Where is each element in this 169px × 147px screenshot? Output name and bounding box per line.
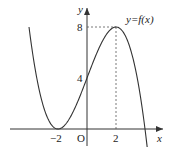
y-tick-4: 4	[77, 72, 83, 84]
function-graph: y x O 8 4 −2 2 y=f(x)	[0, 0, 169, 147]
x-tick-2: 2	[113, 132, 119, 144]
y-axis-label: y	[77, 3, 83, 15]
graph-canvas: y x O 8 4 −2 2 y=f(x)	[0, 0, 169, 147]
origin-label: O	[77, 132, 85, 144]
function-label: y=f(x)	[125, 13, 154, 26]
y-tick-8: 8	[77, 21, 83, 33]
x-tick-neg2: −2	[50, 132, 62, 144]
x-axis-label: x	[156, 132, 162, 144]
